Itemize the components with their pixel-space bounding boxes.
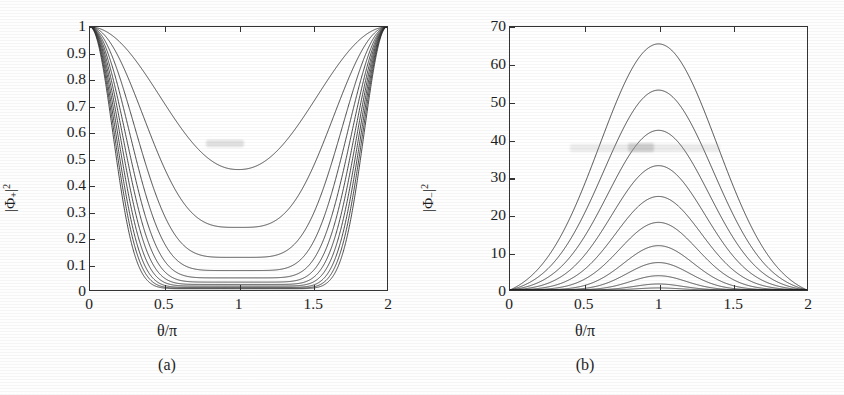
panel-a-plot-area — [89, 26, 388, 291]
panel-a: |Φ+|2 00.10.20.30.40.50.60.70.80.91 θ/π … — [0, 0, 422, 395]
y-tick-label: 50 — [491, 94, 507, 110]
y-tick — [90, 160, 95, 161]
panel-a-y-axis-title-sub: + — [8, 192, 19, 198]
scan-artifact — [206, 140, 244, 147]
curve-n=8 — [90, 27, 387, 286]
panel-b: |Φ−|2 010203040506070 θ/π (b) 00.511.52 — [422, 0, 844, 395]
panel-a-y-axis-title: |Φ+|2 — [1, 183, 19, 211]
panel-b-y-tick-labels: 010203040506070 — [460, 26, 506, 291]
x-tick-top — [585, 27, 586, 32]
panel-b-y-axis-title: |Φ−|2 — [419, 183, 437, 211]
y-tick — [90, 133, 95, 134]
y-tick — [510, 103, 515, 104]
curve-n=6 — [510, 222, 807, 290]
panel-b-y-axis-title-sup: 2 — [419, 183, 430, 188]
panel-a-y-axis-title-sup: 2 — [1, 183, 12, 188]
x-tick-label: 0 — [85, 296, 93, 312]
curve-n=3 — [510, 130, 807, 290]
y-tick — [510, 216, 515, 217]
x-tick-label: 1.5 — [304, 296, 323, 312]
y-tick-label: 0.4 — [67, 177, 86, 193]
x-tick-label: 0 — [505, 296, 513, 312]
x-tick-label: 2 — [384, 296, 392, 312]
y-tick — [90, 27, 95, 28]
x-tick-top — [734, 27, 735, 32]
curve-n=11 — [90, 27, 387, 289]
y-tick — [90, 186, 95, 187]
curve-n=2 — [510, 90, 807, 290]
y-tick — [510, 65, 515, 66]
curve-n=9 — [90, 27, 387, 287]
y-tick-label: 0.3 — [67, 204, 86, 220]
y-tick — [510, 27, 515, 28]
y-tick — [90, 213, 95, 214]
panel-b-curves — [510, 27, 807, 290]
x-tick-label: 2 — [804, 296, 812, 312]
panel-b-plot-area — [509, 26, 808, 291]
panel-a-caption: (a) — [0, 356, 378, 374]
x-tick-top — [165, 27, 166, 32]
x-tick — [165, 285, 166, 290]
y-tick — [510, 178, 515, 179]
x-tick — [585, 285, 586, 290]
scan-artifact — [628, 143, 654, 152]
y-tick-label: 0.1 — [67, 257, 86, 273]
y-tick — [90, 266, 95, 267]
y-tick-label: 0.2 — [67, 230, 86, 246]
panel-a-curves — [90, 27, 387, 290]
y-tick-label: 0.7 — [67, 98, 86, 114]
x-tick-top — [314, 27, 315, 32]
y-tick — [90, 80, 95, 81]
curve-n=1 — [90, 27, 387, 170]
x-tick-label: 0.5 — [574, 296, 593, 312]
panel-a-x-axis-title: θ/π — [0, 322, 378, 340]
x-tick-label: 1 — [655, 296, 663, 312]
y-tick — [510, 141, 515, 142]
x-tick-label: 0.5 — [154, 296, 173, 312]
x-tick-top — [240, 27, 241, 32]
y-tick — [90, 54, 95, 55]
y-tick-label: 60 — [491, 56, 507, 72]
curve-n=7 — [510, 246, 807, 290]
curve-n=1 — [510, 44, 807, 290]
panel-b-y-axis-title-base: |Φ — [419, 197, 436, 211]
y-tick — [90, 239, 95, 240]
panel-b-y-axis-title-sub: − — [426, 192, 437, 198]
panel-b-x-axis-title: θ/π — [374, 322, 796, 340]
y-tick-label: 10 — [491, 245, 507, 261]
y-tick-label: 30 — [491, 170, 507, 186]
y-tick — [90, 107, 95, 108]
panel-b-caption: (b) — [374, 356, 796, 374]
curve-n=4 — [510, 166, 807, 290]
y-tick-label: 0.8 — [67, 71, 86, 87]
y-tick — [510, 254, 515, 255]
figure-two-panel-plot: |Φ+|2 00.10.20.30.40.50.60.70.80.91 θ/π … — [0, 0, 844, 395]
x-tick-label: 1 — [235, 296, 243, 312]
curve-n=8 — [510, 263, 807, 290]
y-tick-label: 20 — [491, 208, 507, 224]
x-tick — [240, 285, 241, 290]
panel-a-y-tick-labels: 00.10.20.30.40.50.60.70.80.91 — [40, 26, 86, 291]
x-tick — [734, 285, 735, 290]
panel-a-y-axis-title-base: |Φ — [1, 197, 18, 211]
x-tick — [660, 285, 661, 290]
y-tick-label: 1 — [78, 18, 86, 34]
y-tick-label: 0.6 — [67, 124, 86, 140]
y-tick-label: 70 — [491, 18, 507, 34]
y-tick-label: 0.9 — [67, 45, 86, 61]
y-tick-label: 0.5 — [67, 151, 86, 167]
x-tick — [314, 285, 315, 290]
x-tick-label: 1.5 — [724, 296, 743, 312]
x-tick-top — [660, 27, 661, 32]
curve-n=10 — [90, 27, 387, 288]
y-tick-label: 40 — [491, 132, 507, 148]
